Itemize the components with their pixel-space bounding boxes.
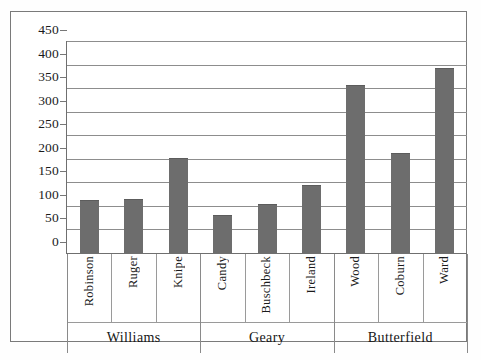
y-tick-label: 250	[15, 117, 59, 131]
category-label: Buschbeck	[259, 256, 274, 314]
group-separator	[467, 254, 468, 353]
group-label: Butterfield	[368, 330, 433, 346]
bar-knipe[interactable]	[169, 158, 188, 253]
y-tick-label: 300	[15, 94, 59, 108]
bar-robinson[interactable]	[80, 200, 99, 253]
y-tick-label: 100	[15, 188, 59, 202]
y-tick-label: 0	[15, 235, 59, 249]
bar-ward[interactable]	[435, 68, 454, 253]
bar-ruger[interactable]	[124, 199, 143, 253]
bar-candy[interactable]	[213, 215, 232, 253]
group-cell: Geary	[200, 324, 333, 352]
group-label: Williams	[107, 330, 161, 346]
category-cell: Ireland	[289, 256, 333, 322]
chart-canvas: 450400350300250200150100500 RobinsonRuge…	[0, 0, 481, 360]
bar-wood[interactable]	[346, 85, 365, 253]
y-axis-labels: 450400350300250200150100500	[11, 12, 59, 360]
bar-buschbeck[interactable]	[258, 204, 277, 253]
category-label: Robinson	[82, 256, 97, 306]
category-label: Knipe	[171, 256, 186, 288]
category-cell: Ruger	[111, 256, 155, 322]
bar-ireland[interactable]	[302, 185, 321, 253]
category-cell: Candy	[200, 256, 244, 322]
y-tick-label: 200	[15, 141, 59, 155]
group-cell: Butterfield	[334, 324, 467, 352]
category-label: Coburn	[393, 256, 408, 295]
group-divider-line	[67, 322, 467, 323]
category-cell: Wood	[334, 256, 378, 322]
chart-frame: 450400350300250200150100500 RobinsonRuge…	[10, 11, 467, 342]
category-label: Wood	[348, 256, 363, 287]
category-label: Ireland	[304, 256, 319, 294]
category-label: Ruger	[126, 256, 141, 288]
category-cell: Buschbeck	[245, 256, 289, 322]
category-label: Candy	[215, 256, 230, 290]
group-label: Geary	[249, 330, 285, 346]
y-tick-label: 450	[15, 23, 59, 37]
y-tick-mark-450	[60, 30, 67, 31]
category-cell: Knipe	[156, 256, 200, 322]
group-cell: Williams	[67, 324, 200, 352]
bar-coburn[interactable]	[391, 153, 410, 253]
category-cell: Coburn	[378, 256, 422, 322]
category-cell: Ward	[423, 256, 467, 322]
category-label: Ward	[437, 256, 452, 284]
category-label-table: RobinsonRugerKnipeCandyBuschbeckIrelandW…	[67, 254, 467, 353]
y-tick-label: 400	[15, 47, 59, 61]
category-cell: Robinson	[67, 256, 111, 322]
group-separator	[67, 254, 68, 353]
y-tick-label: 150	[15, 164, 59, 178]
y-tick-label: 350	[15, 70, 59, 84]
bar-series	[67, 41, 467, 253]
y-tick-label: 50	[15, 211, 59, 225]
